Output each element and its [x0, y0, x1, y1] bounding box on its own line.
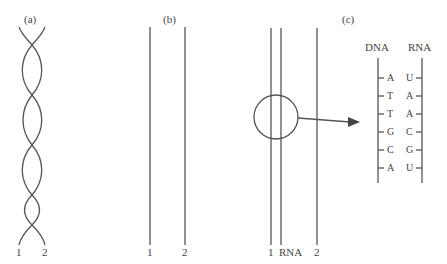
- dna-base: A: [387, 73, 394, 83]
- dna-base: T: [387, 109, 393, 119]
- ladder-header-dna: DNA: [365, 42, 389, 53]
- panel-b-label: (b): [163, 14, 176, 25]
- arrow-line: [298, 118, 350, 122]
- transcription-strands: [254, 28, 350, 245]
- strand-label-b2: 2: [182, 247, 188, 258]
- rna-base: G: [406, 145, 413, 155]
- dna-base: A: [387, 163, 394, 173]
- rna-base: A: [406, 109, 413, 119]
- arrow-head-icon: [348, 117, 360, 127]
- rna-base: A: [406, 91, 413, 101]
- strand-label-c-rna: RNA: [279, 247, 302, 258]
- dna-base: C: [387, 145, 394, 155]
- separated-strands: [150, 27, 185, 245]
- rna-base: U: [406, 73, 413, 83]
- strand-label-a1: 1: [16, 247, 22, 258]
- dna-base: T: [387, 91, 393, 101]
- ladder-header-rna: RNA: [408, 42, 431, 53]
- strand-label-c2: 2: [314, 247, 320, 258]
- panel-a-label: (a): [24, 14, 36, 25]
- panel-c-label: (c): [342, 14, 354, 25]
- rna-base: C: [406, 127, 413, 137]
- strand-label-b1: 1: [147, 247, 153, 258]
- magnify-circle: [254, 95, 298, 139]
- double-helix: [19, 27, 45, 245]
- rna-base: U: [406, 163, 413, 173]
- diagram-canvas: [0, 0, 447, 264]
- base-pair-ladder: [378, 58, 422, 183]
- strand-label-a2: 2: [42, 247, 48, 258]
- dna-base: G: [387, 127, 394, 137]
- strand-label-c1: 1: [268, 247, 274, 258]
